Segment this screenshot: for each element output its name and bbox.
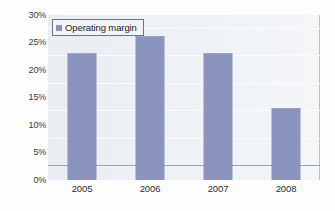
bar-slot <box>252 15 320 180</box>
x-axis-tick-label: 2007 <box>184 183 252 194</box>
y-axis-tick-label: 30% <box>6 11 46 20</box>
bar-2006[interactable] <box>136 36 165 180</box>
y-axis-tick-label: 0% <box>6 176 46 185</box>
x-axis-tick-label: 2005 <box>48 183 116 194</box>
legend-swatch-icon <box>56 25 62 31</box>
bar-slot <box>116 15 184 180</box>
y-axis-tick-label: 20% <box>6 66 46 75</box>
bar-slot <box>184 15 252 180</box>
legend-label: Operating margin <box>65 22 137 33</box>
y-axis-tick-label: 5% <box>6 148 46 157</box>
y-axis-tick-label: 15% <box>6 93 46 102</box>
y-axis-tick-label: 25% <box>6 38 46 47</box>
gridline <box>48 0 320 1</box>
bar-slot <box>48 15 116 180</box>
bar-2007[interactable] <box>204 53 233 181</box>
bar-2005[interactable] <box>68 53 97 181</box>
x-axis-tick-label: 2006 <box>116 183 184 194</box>
bar-2008[interactable] <box>272 108 301 181</box>
y-axis-tick-label: 10% <box>6 121 46 130</box>
x-axis-tick-label: 2008 <box>252 183 320 194</box>
chart-legend: Operating margin <box>52 19 144 36</box>
operating-margin-bar-chart: 30%25%20%15%10%5%0% 2005200620072008 Ope… <box>0 0 335 211</box>
